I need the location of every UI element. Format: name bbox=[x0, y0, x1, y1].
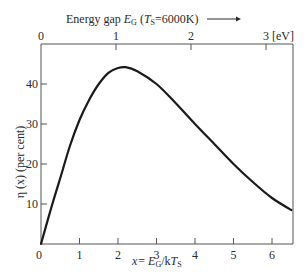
y-tick-label: 30 bbox=[26, 117, 38, 131]
y-tick-label: 10 bbox=[26, 197, 38, 211]
arrow-right-icon bbox=[207, 17, 241, 22]
top-tick-label: 0 bbox=[38, 29, 44, 43]
y-tick-label: 20 bbox=[26, 157, 38, 171]
top-axis-title: Energy gap EG (TS=6000K) bbox=[66, 12, 198, 27]
x-tick-label: 4 bbox=[192, 248, 198, 262]
tick-labels: 0123456102030400123 [eV] bbox=[26, 29, 294, 262]
x-tick-label: 1 bbox=[77, 248, 83, 262]
x-tick-label: 5 bbox=[231, 248, 237, 262]
x-tick-label: 6 bbox=[269, 248, 275, 262]
y-tick-label: 40 bbox=[26, 77, 38, 91]
efficiency-curve bbox=[41, 67, 291, 244]
top-tick-label: 1 bbox=[113, 29, 119, 43]
top-tick-label: 2 bbox=[188, 29, 194, 43]
top-tick-label: 3 [eV] bbox=[263, 29, 294, 43]
efficiency-chart: 0123456102030400123 [eV] Energy gap EG (… bbox=[0, 0, 307, 278]
plot-frame bbox=[41, 44, 293, 244]
y-axis-title: η (x) (per cent) bbox=[13, 126, 27, 199]
x-tick-label: 2 bbox=[115, 248, 121, 262]
x-tick-label: 0 bbox=[36, 248, 42, 262]
axis-ticks bbox=[41, 44, 272, 244]
